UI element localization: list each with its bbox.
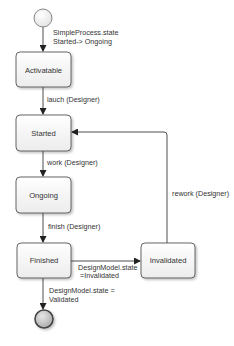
transition-rework-label: rework (Designer) [172,189,229,198]
transition-init-label-line1: SimpleProcess.state [53,28,119,37]
transition-validate-label-line2: Validated [49,295,78,304]
initial-state-node[interactable] [34,9,52,27]
state-started-label: Started [31,129,55,138]
state-finished-label: Finished [30,256,59,265]
state-invalidated-label: Invalidated [150,256,187,265]
transition-work-label: work (Designer) [46,158,98,167]
transition-init-label-line2: Started-> Ongoing [53,37,112,46]
state-activatable-label: Activatable [25,66,62,75]
transition-validate-label-line1: DesignModel.state = [49,286,115,295]
transition-lauch-label: lauch (Designer) [47,95,100,104]
state-diagram: Activatable Started Ongoing Finished Inv… [0,0,234,346]
transition-invalidate-label-line2: =Invalidated [80,271,119,280]
state-ongoing-label: Ongoing [29,191,58,200]
transition-finish-label: finish (Designer) [48,222,100,231]
final-state-node[interactable] [35,310,53,328]
